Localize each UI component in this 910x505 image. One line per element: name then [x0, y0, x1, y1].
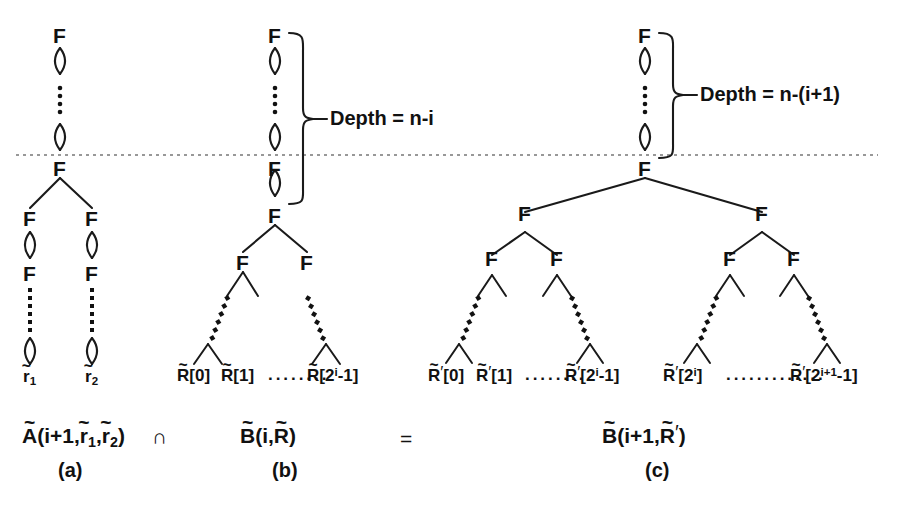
panel-b-tree: [194, 33, 340, 364]
formula-a: ~A(i+1,~r1,~r2): [22, 425, 125, 449]
node-label-c-rr: F: [787, 248, 800, 269]
tilde-accent: ~: [84, 358, 93, 374]
tilde-accent: ~: [478, 357, 487, 373]
leaf-label-a-r2: ~r2: [85, 368, 98, 388]
depth-label-b: Depth = n-i: [330, 108, 434, 128]
depth-label-c: Depth = n-(i+1): [700, 84, 840, 104]
formula-c: ~B(i+1,~R′): [602, 425, 686, 447]
panel-a-tree: [25, 48, 98, 364]
vertical-dots-a-top: [58, 86, 63, 115]
node-label-b-mid: F: [268, 158, 281, 179]
node-label-a-root: F: [53, 25, 66, 46]
node-label-b-left: F: [236, 252, 249, 273]
node-label-c-l: F: [518, 203, 531, 224]
vertical-dots-a-right: [90, 288, 94, 332]
prime-mark: ′: [488, 363, 491, 381]
vertical-dots-a-left: [28, 288, 32, 332]
node-label-b-root: F: [268, 25, 281, 46]
node-label-c-lr: F: [550, 248, 563, 269]
tilde-accent: ~: [792, 357, 801, 373]
leaf-label-b-last: ~R[2i-1]: [307, 367, 358, 384]
diagram-line-layer: [0, 0, 910, 505]
tilde-accent: ~: [100, 413, 111, 432]
node-label-c-root-top: F: [638, 25, 651, 46]
node-label-a-left-2: F: [23, 263, 36, 284]
tilde-accent: ~: [223, 357, 232, 373]
tilde-accent: ~: [22, 358, 31, 374]
dotted-edge-c-1: [460, 295, 481, 341]
leaf-label-c-3: ~R′[2i]: [663, 367, 702, 384]
node-label-c-rl: F: [723, 248, 736, 269]
node-label-a-right-1: F: [85, 208, 98, 229]
leaf-label-a-r1: ~r1: [23, 368, 36, 388]
tilde-accent: ~: [179, 357, 188, 373]
dotted-edge-b-right: [305, 295, 326, 341]
panel-label-c: (c): [645, 460, 669, 480]
tilde-accent: ~: [567, 357, 576, 373]
brace-depth-b: [289, 33, 313, 204]
panel-label-a: (a): [58, 460, 82, 480]
node-label-a-mid: F: [53, 158, 66, 179]
leaf-label-c-2: ~R′[2i-1]: [565, 367, 619, 384]
vertical-dots-b-top: [273, 86, 278, 115]
leaf-label-c-1: ~R′[1]: [476, 367, 512, 384]
node-label-c-root: F: [638, 158, 651, 179]
node-label-a-left-1: F: [23, 208, 36, 229]
formula-b: ~B(i,~R): [240, 425, 296, 446]
tilde-accent: ~: [662, 413, 673, 432]
tilde-accent: ~: [309, 357, 318, 373]
node-label-b-right: F: [300, 252, 313, 273]
dotted-edge-b-left: [209, 295, 230, 341]
prime-mark: ′: [440, 363, 443, 381]
node-label-c-r: F: [755, 203, 768, 224]
equals-operator: =: [400, 428, 412, 449]
panel-label-b: (b): [272, 460, 298, 480]
dotted-edge-c-3: [698, 295, 719, 341]
tilde-accent: ~: [665, 357, 674, 373]
tilde-accent: ~: [24, 413, 35, 432]
node-label-b-sub: F: [268, 205, 281, 226]
prime-mark: ′: [802, 363, 805, 381]
leaf-label-c-4: ~R′[2i+1-1]: [790, 367, 858, 384]
tilde-accent: ~: [276, 413, 287, 432]
leaf-label-b-1: ~R[1]: [221, 367, 254, 384]
node-label-a-right-2: F: [85, 263, 98, 284]
leaf-label-b-0: ~R[0]: [177, 367, 210, 384]
node-label-c-ll: F: [485, 248, 498, 269]
prime-mark: ′: [675, 363, 678, 381]
vertical-dots-c-top: [643, 86, 648, 115]
tilde-accent: ~: [242, 413, 253, 432]
tree-diagram-figure: F F F F F F ~r1 ~r2 F F F F F Depth = n-…: [0, 0, 910, 505]
prime-mark: ′: [577, 363, 580, 381]
dotted-edge-c-4: [806, 295, 827, 341]
tilde-accent: ~: [604, 413, 615, 432]
tilde-accent: ~: [430, 357, 439, 373]
leaf-label-c-0: ~R′[0]: [428, 367, 464, 384]
dotted-edge-c-2: [569, 295, 590, 341]
brace-depth-c: [659, 33, 683, 158]
prime-mark: ′: [675, 421, 679, 443]
tilde-accent: ~: [78, 413, 89, 432]
intersection-operator: ∩: [152, 426, 167, 447]
